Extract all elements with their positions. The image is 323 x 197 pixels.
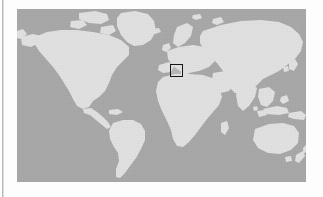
locator-box-central-europe — [170, 64, 183, 77]
world-map-figure — [17, 9, 306, 182]
page-background — [0, 0, 323, 197]
landmass-tasmania — [285, 156, 292, 162]
page-margin-rule-shadow — [3, 0, 4, 197]
landmass-korea — [283, 66, 289, 72]
world-map-svg — [17, 9, 306, 182]
